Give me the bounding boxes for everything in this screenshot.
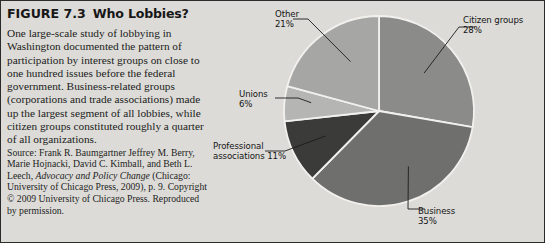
pie-label-professional-associations: Professional associations 11% [213,141,286,162]
pie-label-business-name: Business [418,206,455,216]
pie-label-other-value: 21% [275,19,299,29]
figure-text-column: FIGURE 7.3Who Lobbies? One large-scale s… [7,6,213,216]
pie-label-unions-value: 6% [239,99,268,109]
pie-label-professional-associations-line2: associations 11% [213,151,286,161]
figure-body-text: One large-scale study of lobbying in Was… [7,27,209,147]
pie-label-other-name: Other [275,9,299,19]
pie-label-unions: Unions 6% [239,89,268,110]
source-work-title: Advocacy and Policy Change [36,170,150,181]
pie-label-business: Business 35% [418,206,455,227]
pie-label-citizen-groups: Citizen groups 28% [463,15,523,36]
pie-label-business-value: 35% [418,216,455,226]
pie-slice-citizen-groups [379,16,474,127]
pie-chart-svg [213,1,545,243]
figure-source-note: Source: Frank R. Baumgartner Jeffrey M. … [7,147,211,217]
pie-label-professional-associations-line1: Professional [213,141,286,151]
figure-number: FIGURE 7.3 [7,6,86,21]
figure-heading: FIGURE 7.3Who Lobbies? [7,6,213,21]
page-title: Who Lobbies? [93,6,189,21]
figure-container: FIGURE 7.3Who Lobbies? One large-scale s… [0,0,545,243]
pie-label-citizen-groups-value: 28% [463,25,523,35]
pie-chart: Other 21% Citizen groups 28% Unions 6% P… [213,1,545,243]
pie-label-other: Other 21% [275,9,299,30]
pie-label-citizen-groups-name: Citizen groups [463,15,523,25]
pie-label-unions-name: Unions [239,89,268,99]
